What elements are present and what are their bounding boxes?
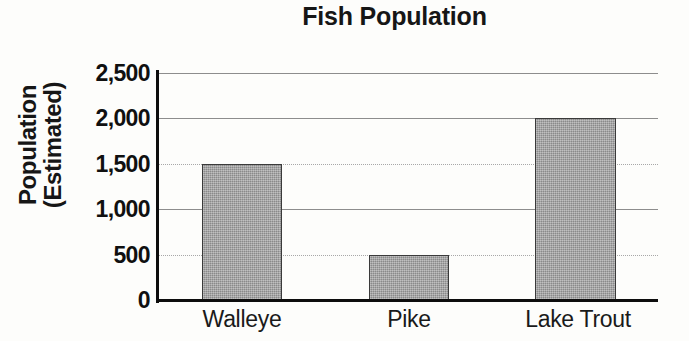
y-tick-label-1000: 1,000 <box>50 196 150 223</box>
bar-lake-trout[interactable] <box>535 118 616 300</box>
bar-walleye[interactable] <box>202 164 282 300</box>
x-category-label-pike: Pike <box>387 306 431 333</box>
y-axis-line <box>156 70 159 303</box>
y-tick-label-2000: 2,000 <box>50 105 150 132</box>
bar-pike[interactable] <box>369 255 449 300</box>
x-category-label-lake-trout: Lake Trout <box>525 306 631 333</box>
y-axis-tick-labels: 2,500 2,000 1,500 1,000 500 0 <box>42 0 150 341</box>
y-tick-label-1500: 1,500 <box>50 151 150 178</box>
y-axis-title-line-1: Population <box>16 85 41 205</box>
bar-chart-figure: Fish Population Population (Estimated) 2… <box>0 0 689 341</box>
y-tick-label-2500: 2,500 <box>50 60 150 87</box>
plot-area <box>158 73 658 300</box>
y-tick-label-0: 0 <box>50 287 150 314</box>
x-category-label-walleye: Walleye <box>203 306 282 333</box>
y-tick-label-500: 500 <box>50 242 150 269</box>
gridline-2500 <box>158 73 658 74</box>
x-axis-line <box>156 299 658 302</box>
